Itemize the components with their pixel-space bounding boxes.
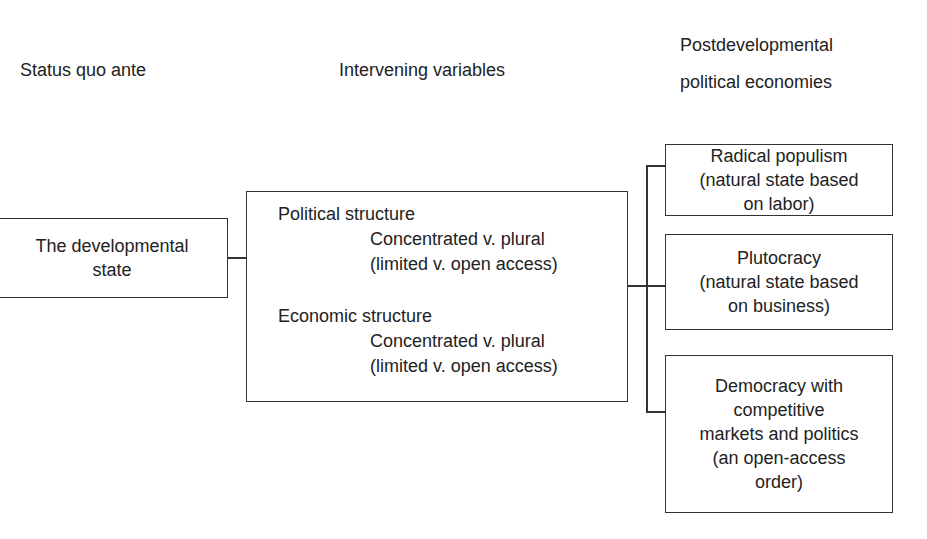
political-structure-group: Political structure Concentrated v. plur… [278, 202, 558, 277]
democracy-line4: (an open-access [712, 446, 845, 470]
plutocracy-line2: (natural state based [699, 270, 858, 294]
outcomes-bus-line [646, 165, 648, 413]
heading-status-quo-ante: Status quo ante [20, 55, 146, 85]
political-structure-title: Political structure [278, 202, 558, 227]
intervening-variables-box: Political structure Concentrated v. plur… [246, 191, 628, 402]
plutocracy-line3: on business) [728, 294, 830, 318]
democracy-line1: Democracy with [715, 374, 843, 398]
radical-populism-line3: on labor) [743, 192, 814, 216]
democracy-line3: markets and politics [699, 422, 858, 446]
political-structure-line2: (limited v. open access) [278, 252, 558, 277]
economic-structure-line2: (limited v. open access) [278, 354, 558, 379]
democracy-line5: order) [755, 470, 803, 494]
political-structure-line1: Concentrated v. plural [278, 227, 558, 252]
connector-left-to-middle [227, 257, 247, 259]
outcome-democracy-box: Democracy with competitive markets and p… [665, 355, 893, 513]
radical-populism-line1: Radical populism [710, 144, 847, 168]
heading-postdevelopmental-line2: political economies [680, 67, 832, 97]
democracy-line2: competitive [733, 398, 824, 422]
plutocracy-line1: Plutocracy [737, 246, 821, 270]
heading-intervening-variables: Intervening variables [339, 55, 505, 85]
outcome-radical-populism-box: Radical populism (natural state based on… [665, 144, 893, 216]
developmental-state-line1: The developmental [35, 234, 188, 258]
developmental-state-line2: state [92, 258, 131, 282]
developmental-state-box: The developmental state [0, 218, 228, 298]
economic-structure-title: Economic structure [278, 304, 558, 329]
radical-populism-line2: (natural state based [699, 168, 858, 192]
branch-democracy [646, 411, 666, 413]
economic-structure-line1: Concentrated v. plural [278, 329, 558, 354]
heading-postdevelopmental-line1: Postdevelopmental [680, 30, 833, 60]
branch-radical-populism [646, 165, 666, 167]
outcome-plutocracy-box: Plutocracy (natural state based on busin… [665, 234, 893, 330]
economic-structure-group: Economic structure Concentrated v. plura… [278, 304, 558, 379]
